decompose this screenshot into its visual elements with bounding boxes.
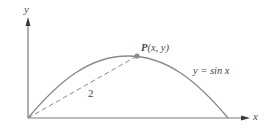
point-p-marker [134, 53, 139, 58]
x-axis-arrow-icon [241, 116, 250, 121]
curve-equation-label: y = sin x [193, 66, 230, 77]
segment-length-label: 2 [88, 88, 94, 99]
y-axis-label: y [24, 4, 29, 15]
y-axis-arrow-icon [26, 17, 31, 26]
point-p-coords: (x, y) [147, 42, 169, 53]
chord-segment [28, 56, 137, 118]
point-p-label: P(x, y) [141, 43, 169, 54]
diagram-canvas [0, 0, 273, 131]
x-axis-label: x [253, 111, 258, 122]
